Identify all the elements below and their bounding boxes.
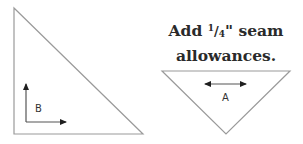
quarter-inch-fraction: 1/4 (208, 24, 225, 39)
piece-b (14, 8, 143, 134)
instruction-suffix: " seam (225, 21, 284, 40)
seam-allowance-instruction: Add 1/4" seam allowances. (160, 18, 292, 66)
instruction-line-2: allowances. (160, 45, 292, 66)
piece-b-outline (14, 8, 143, 134)
instruction-prefix: Add (169, 21, 208, 40)
piece-b-label: B (35, 104, 42, 114)
instruction-line-1: Add 1/4" seam (160, 18, 292, 45)
piece-a-label: A (222, 93, 229, 103)
